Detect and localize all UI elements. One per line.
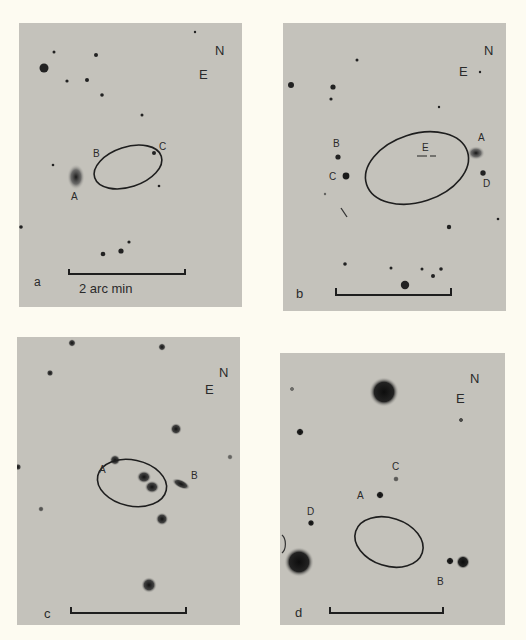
north-label: N: [219, 365, 228, 380]
panel-label: c: [44, 606, 51, 621]
galaxy-a: [467, 146, 485, 160]
object-label-c: C: [159, 141, 166, 152]
east-label: E: [459, 64, 468, 79]
scale-bar: [336, 288, 451, 295]
stars: [17, 339, 233, 593]
scale-bar: [69, 269, 185, 274]
panel-d: A B C D N E d: [280, 353, 505, 625]
object-label-c: C: [392, 461, 399, 472]
panel-b: A B C D E N E b: [283, 23, 506, 311]
edge-artifact: [282, 535, 285, 553]
object-label-a: A: [478, 132, 485, 143]
sky-field-d: A B C D N E d: [280, 353, 505, 625]
north-label: N: [215, 43, 224, 58]
sky-field-a: A B C N E 2 arc min a: [19, 23, 242, 307]
object-label-d: D: [307, 506, 314, 517]
sky-field-c: A B N E c: [17, 337, 240, 625]
object-label-a: A: [357, 490, 364, 501]
north-label: N: [484, 43, 493, 58]
search-ellipse: [93, 453, 171, 513]
object-label-d: D: [483, 178, 490, 189]
scale-bar: [330, 607, 443, 613]
search-ellipse: [89, 137, 168, 197]
panel-label: d: [295, 605, 302, 620]
scale-bar-label: 2 arc min: [79, 281, 132, 296]
east-label: E: [205, 382, 214, 397]
object-label-b: B: [93, 148, 100, 159]
panel-c: A B N E c: [17, 337, 240, 625]
stars: [288, 59, 499, 290]
object-label-c: C: [329, 171, 336, 182]
object-label-b: B: [333, 138, 340, 149]
panel-label: a: [34, 275, 41, 289]
arrow-marker: [341, 208, 347, 217]
object-label-e: E: [422, 142, 429, 153]
east-label: E: [199, 67, 208, 82]
object-label-b: B: [191, 470, 198, 481]
search-ellipse: [356, 119, 478, 216]
stars: [19, 31, 196, 256]
stars: [284, 377, 470, 577]
star-c: [343, 173, 350, 180]
panel-a: A B C N E 2 arc min a: [19, 23, 242, 307]
east-label: E: [456, 391, 465, 406]
sky-field-b: A B C D E N E b: [283, 23, 506, 311]
object-label-b: B: [437, 576, 444, 587]
north-label: N: [470, 371, 479, 386]
object-label-a: A: [71, 191, 78, 202]
panel-label: b: [296, 286, 303, 301]
scale-bar: [71, 607, 186, 613]
search-ellipse: [348, 508, 429, 575]
galaxy-a: [67, 164, 85, 190]
object-label-a: A: [99, 464, 106, 475]
